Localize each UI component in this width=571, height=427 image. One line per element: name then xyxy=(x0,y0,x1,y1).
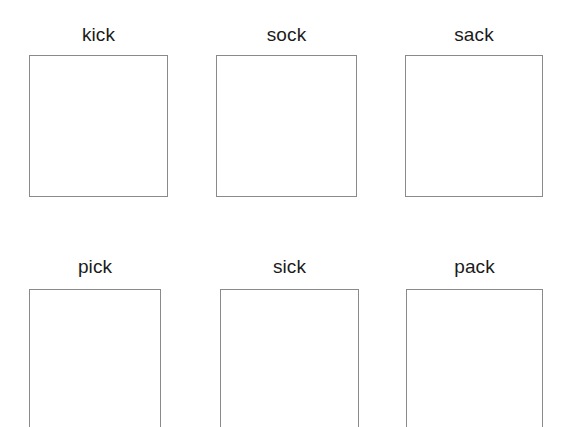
worksheet-canvas: kick sock sack pick sick pack xyxy=(0,0,571,427)
drawing-box-sick[interactable] xyxy=(220,289,359,427)
word-box-cell-pack: pack xyxy=(406,0,543,427)
drawing-box-pack[interactable] xyxy=(406,289,543,427)
word-box-cell-sick: sick xyxy=(220,0,359,427)
word-label-sick: sick xyxy=(220,256,359,277)
word-box-cell-pick: pick xyxy=(29,0,161,427)
drawing-box-pick[interactable] xyxy=(29,289,161,427)
word-label-pack: pack xyxy=(406,256,543,277)
word-label-pick: pick xyxy=(29,256,161,277)
